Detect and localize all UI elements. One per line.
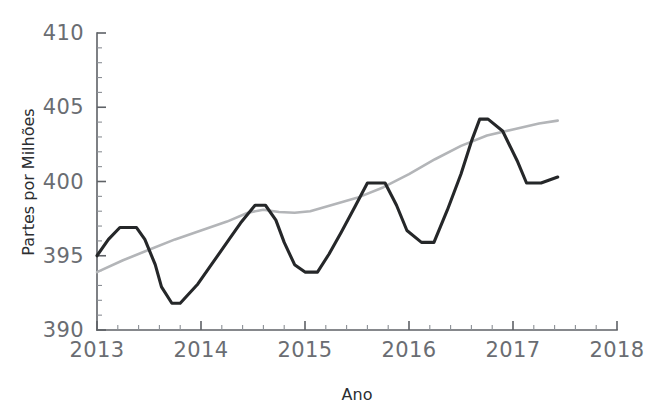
- y-tick-label: 405: [43, 95, 84, 119]
- y-tick-label: 395: [43, 244, 84, 268]
- y-tick-label: 410: [43, 21, 84, 45]
- y-axis-ticks: [97, 33, 106, 330]
- x-tick-label: 2018: [589, 338, 644, 362]
- y-tick-label: 400: [43, 170, 84, 194]
- observed-line-series: [97, 119, 558, 303]
- trend-line-series: [97, 121, 558, 272]
- y-axis-tick-labels: 390395400405410: [43, 21, 84, 342]
- x-axis-ticks: [97, 321, 617, 330]
- x-tick-label: 2014: [173, 338, 228, 362]
- x-axis-title: Ano: [342, 385, 373, 404]
- x-tick-label: 2013: [69, 338, 124, 362]
- x-axis-tick-labels: 201320142015201620172018: [69, 338, 644, 362]
- x-tick-label: 2015: [277, 338, 332, 362]
- co2-concentration-chart: 390395400405410 201320142015201620172018…: [0, 0, 652, 415]
- x-tick-label: 2016: [381, 338, 436, 362]
- y-axis-title: Partes por Milhões: [19, 108, 38, 255]
- chart-plot-area: 390395400405410 201320142015201620172018…: [0, 0, 652, 415]
- x-tick-label: 2017: [485, 338, 540, 362]
